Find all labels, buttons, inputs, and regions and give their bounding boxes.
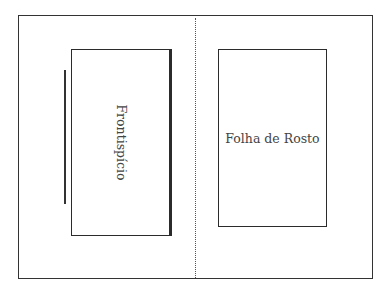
frontispiece-label: Frontispício bbox=[114, 104, 129, 180]
gutter-divider bbox=[195, 18, 196, 278]
right-page-label-container: Folha de Rosto bbox=[218, 49, 327, 227]
title-page-label: Folha de Rosto bbox=[225, 131, 319, 146]
left-page-edge-bar bbox=[64, 70, 66, 204]
left-page-label-container: Frontispício bbox=[71, 49, 172, 236]
